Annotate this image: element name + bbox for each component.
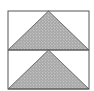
- stacked-triangles-diagram: [0, 0, 94, 91]
- bottom-triangle: [8, 50, 89, 89]
- top-panel: [8, 11, 89, 50]
- top-triangle: [8, 11, 89, 50]
- bottom-panel: [8, 50, 89, 89]
